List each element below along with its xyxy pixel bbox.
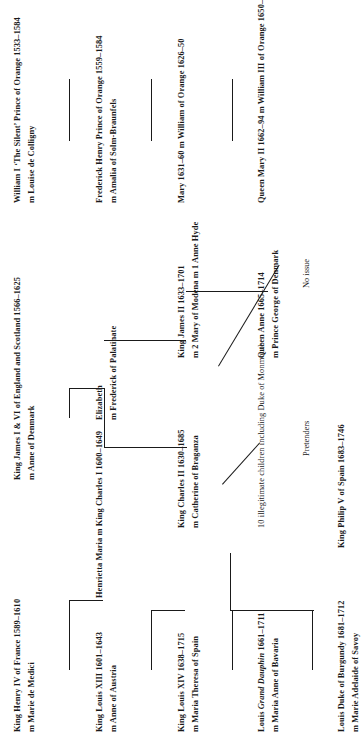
person-name: Henrietta Maria m King Charles I 1600–16… bbox=[96, 431, 105, 598]
person-name: King Louis XIV 1638–1715 bbox=[178, 633, 187, 732]
person-spouse: m Marie Adelaide of Savoy bbox=[352, 600, 361, 732]
connector-henryiv-vert bbox=[69, 600, 103, 601]
note-text: 10 illegitimate children including Duke … bbox=[258, 342, 267, 528]
person-frederick-henry: Frederick Henry Prince of Orange 1559–15… bbox=[96, 35, 119, 203]
connector-henryiv-down bbox=[69, 600, 70, 670]
connector-charlesi-br bbox=[104, 388, 105, 448]
connector-jamesi-h bbox=[69, 388, 70, 418]
connector-jamesi-v bbox=[69, 388, 105, 389]
connector-jamesii-h bbox=[150, 447, 151, 448]
connector-louisxiii-v bbox=[151, 610, 185, 611]
person-spouse: m Anne of Denmark bbox=[28, 277, 37, 480]
connector-philipv bbox=[230, 553, 231, 611]
label-no-issue: No issue bbox=[302, 259, 311, 288]
connector-queenanne bbox=[267, 291, 268, 292]
label-pretenders: Pretenders bbox=[302, 421, 311, 456]
person-queen-mary-ii: Queen Mary II 1662–94 m William III of O… bbox=[258, 0, 267, 203]
person-name: King Henry IV of France 1589–1610 bbox=[14, 599, 23, 732]
connector-elizabeth-v bbox=[104, 340, 186, 341]
person-name: King Philip V of Spain 1683–1746 bbox=[338, 424, 347, 548]
genealogy-chart: King Henry IV of France 1589–1610 m Mari… bbox=[0, 0, 362, 748]
person-name: Mary 1631–60 m William of Orange 1626–50 bbox=[178, 38, 187, 203]
person-duke-of-burgundy: Louis Duke of Burgundy 1681–1712 m Marie… bbox=[338, 600, 361, 732]
person-name: King Charles II 1630–1685 bbox=[178, 429, 187, 528]
person-grand-dauphin: Louis Grand Dauphin 1661–1711 m Maria An… bbox=[258, 612, 281, 732]
person-name: King Louis XIII 1601–1643 bbox=[96, 632, 105, 732]
person-henry-iv: King Henry IV of France 1589–1610 m Mari… bbox=[14, 599, 37, 732]
connector-elizabeth-br bbox=[104, 388, 105, 389]
connector-charlesi-v bbox=[104, 447, 186, 448]
person-name: Queen Mary II 1662–94 m William III of O… bbox=[258, 0, 267, 203]
person-spouse: m Louise de Colligny bbox=[28, 17, 37, 203]
person-james-i: King James I & VI of England and Scotlan… bbox=[14, 277, 37, 480]
person-name: Louis Grand Dauphin 1661–1711 bbox=[258, 612, 267, 732]
illegitimate-children-note: 10 illegitimate children including Duke … bbox=[258, 342, 267, 528]
connector-louisxiv bbox=[232, 610, 233, 670]
connector-jamesii-v bbox=[186, 291, 268, 292]
chart-canvas: King Henry IV of France 1589–1610 m Mari… bbox=[0, 0, 362, 748]
person-louis-xiv: King Louis XIV 1638–1715 m Maria Theresa… bbox=[178, 633, 201, 732]
connector-louisxiii bbox=[151, 610, 152, 670]
person-spouse: m Catherine of Braganza bbox=[192, 429, 201, 528]
person-spouse: m Anne of Austria bbox=[110, 632, 119, 732]
person-name: King James I & VI of England and Scotlan… bbox=[14, 277, 23, 480]
person-spouse: m Maria Theresa of Spain bbox=[192, 633, 201, 732]
person-william-i: William I ‘The Silent’ Prince of Orange … bbox=[14, 17, 37, 203]
person-charles-ii: King Charles II 1630–1685 m Catherine of… bbox=[178, 429, 201, 528]
person-philip-v: King Philip V of Spain 1683–1746 bbox=[338, 424, 347, 548]
person-name: Queen Anne 1665–1714 bbox=[258, 250, 267, 358]
person-name: Frederick Henry Prince of Orange 1559–15… bbox=[96, 35, 105, 203]
connector-charlesii-diagonal bbox=[222, 442, 260, 484]
connector-queenmary bbox=[230, 291, 231, 292]
connector-williami bbox=[69, 79, 70, 141]
person-mary-1631: Mary 1631–60 m William of Orange 1626–50 bbox=[178, 38, 187, 203]
connector-dauphin-h bbox=[312, 610, 313, 670]
connector-frederickh bbox=[151, 79, 152, 141]
person-louis-xiii: King Louis XIII 1601–1643 m Anne of Aust… bbox=[96, 632, 119, 732]
connector-dauphin-v bbox=[230, 610, 314, 611]
person-spouse: m Amalia of Solm-Braunfels bbox=[110, 35, 119, 203]
person-spouse: m Maria Anne of Bavaria bbox=[272, 612, 281, 732]
person-spouse: m Marie de Medici bbox=[28, 599, 37, 732]
connector-charlesii bbox=[186, 447, 187, 448]
person-name: William I ‘The Silent’ Prince of Orange … bbox=[14, 17, 23, 203]
person-name: Louis Duke of Burgundy 1681–1712 bbox=[338, 600, 347, 732]
connector-mary-williamiii bbox=[232, 79, 233, 141]
person-charles-i: Henrietta Maria m King Charles I 1600–16… bbox=[96, 431, 105, 598]
